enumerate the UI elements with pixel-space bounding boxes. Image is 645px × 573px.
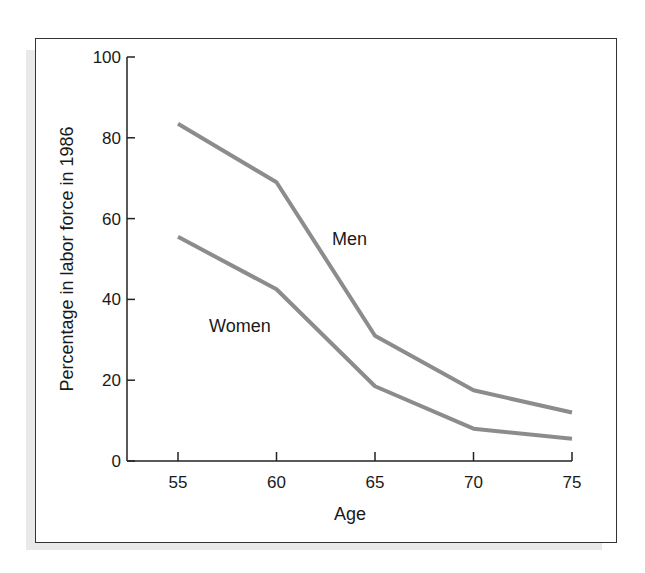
x-tick-label: 60 [267,473,286,492]
y-tick-label: 100 [93,48,121,67]
line-chart: 0204060801005560657075 Men Women Age Per… [0,0,645,573]
x-tick-label: 75 [563,473,582,492]
x-tick-label: 65 [366,473,385,492]
x-tick-label: 70 [464,473,483,492]
y-tick-label: 20 [102,371,121,390]
y-axis-title: Percentage in labor force in 1986 [57,126,77,391]
y-tick-label: 0 [112,452,121,471]
x-axis-title: Age [334,504,366,524]
axes: 0204060801005560657075 [93,48,582,492]
series-label-women: Women [209,316,271,336]
x-tick-label: 55 [169,473,188,492]
y-tick-label: 80 [102,129,121,148]
series-label-men: Men [332,229,367,249]
y-tick-label: 40 [102,290,121,309]
y-tick-label: 60 [102,210,121,229]
series-lines [178,124,572,439]
